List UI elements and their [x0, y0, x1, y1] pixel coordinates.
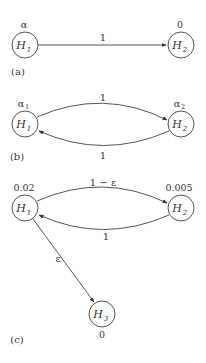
- value-b-h1: α: [18, 98, 25, 109]
- edge-label-c-h1-h3: ε: [55, 253, 60, 264]
- panel-label-c: (c): [10, 334, 24, 345]
- svg-text:H: H: [92, 308, 103, 321]
- edge-b-h2-h1: [39, 131, 169, 146]
- state-diagrams: 1 H 1 α H 2 0 (a) 1 1 H 1 α 1 H 2: [0, 0, 206, 363]
- node-c-h3: H 3: [89, 301, 115, 327]
- edge-c-h1-h3: [33, 219, 94, 302]
- svg-text:H: H: [15, 202, 26, 215]
- panel-b: 1 1 H 1 α 1 H 2 α 2 (b): [10, 92, 194, 162]
- panel-a: 1 H 1 α H 2 0 (a): [11, 19, 194, 77]
- svg-text:H: H: [171, 39, 182, 52]
- value-a-h1: α: [21, 19, 28, 30]
- edge-label-b-h1-h2: 1: [100, 92, 106, 103]
- edge-label-c-h2-h1: 1: [103, 231, 109, 242]
- svg-text:H: H: [171, 202, 182, 215]
- panel-label-b: (b): [10, 151, 24, 162]
- value-c-h3: 0: [99, 329, 105, 340]
- svg-text:H: H: [171, 118, 182, 131]
- panel-label-a: (a): [11, 66, 25, 77]
- edge-label-c-h1-h2: 1 − ε: [90, 177, 116, 188]
- edge-label-b-h2-h1: 1: [100, 150, 106, 161]
- svg-text:2: 2: [182, 209, 188, 217]
- panel-c: 1 − ε 1 ε H 1 0.02 H 2 0.005 H 3 0 (c): [10, 177, 194, 345]
- svg-text:H: H: [15, 118, 26, 131]
- svg-text:H: H: [15, 39, 26, 52]
- node-c-h2: H 2: [168, 195, 194, 221]
- edge-c-h2-h1: [39, 215, 169, 230]
- node-a-h2: H 2: [168, 32, 194, 58]
- value-b-h2-sub: 2: [181, 103, 185, 111]
- svg-text:1: 1: [27, 209, 31, 217]
- value-b-h2: α: [174, 98, 181, 109]
- svg-text:1: 1: [27, 46, 31, 54]
- value-a-h2: 0: [177, 19, 183, 30]
- node-b-h1: H 1: [12, 111, 38, 137]
- svg-text:1: 1: [27, 125, 31, 133]
- svg-text:2: 2: [182, 46, 188, 54]
- edge-b-h1-h2: [37, 103, 167, 120]
- node-c-h1: H 1: [12, 195, 38, 221]
- edge-c-h1-h2: [37, 187, 167, 203]
- edge-label-a-h1-h2: 1: [100, 32, 106, 43]
- node-b-h2: H 2: [168, 111, 194, 137]
- value-b-h1-sub: 1: [25, 103, 29, 111]
- value-c-h2: 0.005: [165, 182, 192, 193]
- svg-text:2: 2: [182, 125, 188, 133]
- svg-text:3: 3: [104, 315, 109, 323]
- node-a-h1: H 1: [12, 32, 38, 58]
- value-c-h1: 0.02: [13, 182, 34, 193]
